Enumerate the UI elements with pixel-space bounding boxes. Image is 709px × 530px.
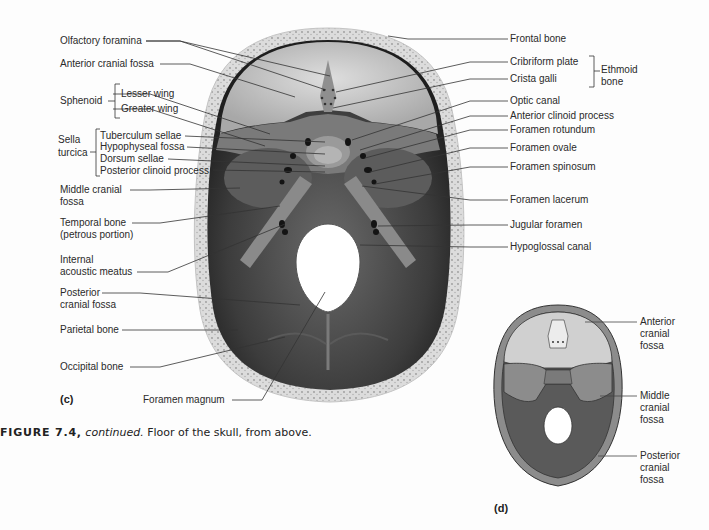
label-occipital-bone: Occipital bone: [60, 361, 123, 373]
label-sphenoid: Sphenoid: [60, 95, 102, 107]
schematic-skull-floor: [494, 305, 622, 486]
label-foramen-lacerum: Foramen lacerum: [510, 194, 588, 206]
label-cribriform-plate: Cribriform plate: [510, 56, 578, 68]
label-posterior-clinoid-process: Posterior clinoid process: [100, 165, 209, 177]
label-middle-cranial-fossa-1: Middle cranial: [60, 184, 122, 196]
label-anterior-clinoid-process: Anterior clinoid process: [510, 110, 614, 122]
label-foramen-spinosum: Foramen spinosum: [510, 161, 596, 173]
figure-caption: FIGURE 7.4, continued. Floor of the skul…: [0, 426, 312, 439]
panel-label-d: (d): [494, 502, 508, 514]
label-d-anterior-3: fossa: [640, 340, 664, 352]
label-d-middle-3: fossa: [640, 414, 664, 426]
label-foramen-rotundum: Foramen rotundum: [510, 124, 595, 136]
label-jugular-foramen: Jugular foramen: [510, 219, 582, 231]
label-parietal-bone: Parietal bone: [60, 324, 119, 336]
label-lesser-wing: Lesser wing: [121, 88, 174, 100]
label-optic-canal: Optic canal: [510, 95, 560, 107]
label-d-posterior-1: Posterior: [640, 450, 680, 462]
figure-number: FIGURE 7.4,: [0, 426, 82, 439]
label-crista-galli: Crista galli: [510, 73, 557, 85]
label-ethmoid-1: Ethmoid: [601, 64, 638, 76]
label-d-middle-1: Middle: [640, 390, 669, 402]
label-sella: Sella: [58, 134, 80, 146]
skull-floor-photo: [194, 28, 464, 402]
label-posterior-cranial-fossa-1: Posterior: [60, 287, 100, 299]
label-d-posterior-3: fossa: [640, 474, 664, 486]
label-greater-wing: Greater wing: [121, 103, 178, 115]
label-internal-acoustic-meatus-1: Internal: [60, 254, 93, 266]
label-dorsum-sellae: Dorsum sellae: [100, 153, 164, 165]
label-d-anterior-1: Anterior: [640, 316, 675, 328]
figure-caption-text: Floor of the skull, from above.: [147, 426, 312, 439]
figure-continued: continued.: [85, 426, 143, 439]
label-temporal-bone-1: Temporal bone: [60, 217, 126, 229]
label-foramen-ovale: Foramen ovale: [510, 142, 577, 154]
label-hypophyseal-fossa: Hypophyseal fossa: [100, 141, 185, 153]
label-hypoglossal-canal: Hypoglossal canal: [510, 241, 591, 253]
label-turcica: turcica: [58, 147, 87, 159]
label-d-posterior-2: cranial: [640, 462, 669, 474]
label-d-middle-2: cranial: [640, 402, 669, 414]
label-internal-acoustic-meatus-2: acoustic meatus: [60, 266, 132, 278]
label-middle-cranial-fossa-2: fossa: [60, 196, 84, 208]
panel-label-c: (c): [60, 393, 73, 405]
label-foramen-magnum: Foramen magnum: [143, 394, 225, 406]
label-ethmoid-2: bone: [601, 76, 623, 88]
label-d-anterior-2: cranial: [640, 328, 669, 340]
label-temporal-bone-2: (petrous portion): [60, 229, 133, 241]
label-posterior-cranial-fossa-2: cranial fossa: [60, 299, 116, 311]
label-anterior-cranial-fossa: Anterior cranial fossa: [60, 58, 154, 70]
label-frontal-bone: Frontal bone: [510, 33, 566, 45]
label-olfactory-foramina: Olfactory foramina: [60, 35, 142, 47]
